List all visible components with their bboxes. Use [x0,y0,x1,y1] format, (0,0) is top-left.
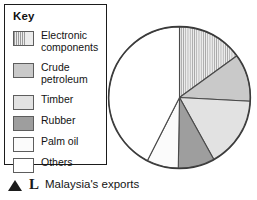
caption-text: Malaysia's exports [45,178,139,191]
triangle-up-icon [8,180,22,191]
figure-caption: L Malaysia's exports [8,172,253,196]
legend-item-others[interactable]: Others [13,157,105,173]
chart-legend: Key Electronic components Crude petroleu… [4,4,107,165]
legend-swatch-electronic-components [13,31,34,46]
pie-chart-plot [104,21,256,176]
legend-swatch-others [13,158,34,173]
pie-slices [109,27,250,168]
legend-label-others: Others [41,157,73,169]
legend-label-crude-petroleum: Crude petroleum [41,62,88,85]
caption-letter: L [29,177,39,192]
legend-label-rubber: Rubber [41,115,75,127]
legend-label-electronic-components: Electronic components [41,30,98,53]
legend-label-palm-oil: Palm oil [41,136,78,148]
legend-label-timber: Timber [41,94,73,106]
legend-swatch-timber [13,95,34,110]
legend-item-crude-petroleum[interactable]: Crude petroleum [13,62,105,85]
legend-swatch-rubber [13,116,34,131]
legend-swatch-palm-oil [13,137,34,152]
pie-chart-figure: Key Electronic components Crude petroleu… [0,0,257,200]
legend-item-rubber[interactable]: Rubber [13,115,105,131]
legend-title: Key [13,10,35,22]
legend-item-timber[interactable]: Timber [13,94,105,110]
pie-chart-svg [104,21,256,176]
legend-item-electronic-components[interactable]: Electronic components [13,30,105,53]
legend-swatch-crude-petroleum [13,63,34,78]
legend-item-palm-oil[interactable]: Palm oil [13,136,105,152]
